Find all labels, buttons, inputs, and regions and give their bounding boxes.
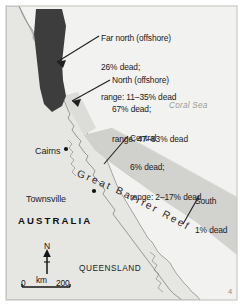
callout-central-region: Central bbox=[130, 134, 201, 144]
city-label-cairns: Cairns bbox=[35, 146, 60, 157]
country-label-australia: AUSTRALIA bbox=[18, 215, 92, 226]
callout-central-range: range: 2–17% dead bbox=[130, 193, 201, 203]
scale-bar-zero: 0 bbox=[21, 279, 26, 289]
callout-central-dead: 6% dead; bbox=[130, 163, 201, 173]
scale-bar-max: 200 bbox=[56, 279, 70, 289]
callout-south-dead: 1% dead bbox=[195, 226, 227, 236]
callout-south-region: South bbox=[195, 197, 227, 207]
callout-south: South 1% dead bbox=[195, 177, 227, 256]
callout-far-north-region: Far north (offshore) bbox=[101, 34, 176, 44]
city-dot-townsville bbox=[92, 189, 96, 193]
scale-bar-unit: km bbox=[36, 276, 47, 286]
great-barrier-reef-map: Great Barrier Reef Far north (offshore) … bbox=[0, 0, 243, 306]
state-label-queensland: QUEENSLAND bbox=[79, 264, 141, 274]
callout-north-region: North (offshore) bbox=[112, 76, 188, 86]
callout-central: Central 6% dead; range: 2–17% dead bbox=[130, 114, 201, 222]
city-label-townsville: Townsville bbox=[26, 194, 66, 205]
city-dot-cairns bbox=[64, 147, 68, 151]
corner-page-mark: 4 bbox=[228, 288, 232, 297]
sea-label-coral-sea: Coral Sea bbox=[169, 101, 208, 111]
compass-north-letter: N bbox=[44, 241, 50, 251]
